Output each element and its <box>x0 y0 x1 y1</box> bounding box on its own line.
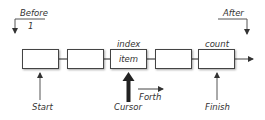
cursor-label: Cursor <box>114 103 142 112</box>
linked-list-cursor-diagram: Before 1 After index count item Start Cu… <box>0 0 265 120</box>
index-label: index <box>117 40 140 49</box>
count-label: count <box>205 40 229 49</box>
start-label: Start <box>32 103 53 112</box>
before-index-label: 1 <box>28 22 33 31</box>
forth-label: Forth <box>139 93 161 102</box>
list-cell-5 <box>198 49 235 69</box>
list-cell-1 <box>22 49 59 69</box>
cell-content: item <box>111 55 146 64</box>
list-cell-4 <box>155 49 192 69</box>
list-cell-3: item <box>110 49 147 69</box>
before-label: Before <box>20 9 48 18</box>
cursor-arrow-icon <box>123 72 135 102</box>
after-label: After <box>223 9 244 18</box>
list-cell-2 <box>67 49 104 69</box>
finish-label: Finish <box>205 103 230 112</box>
after-arrow-icon <box>218 19 247 34</box>
